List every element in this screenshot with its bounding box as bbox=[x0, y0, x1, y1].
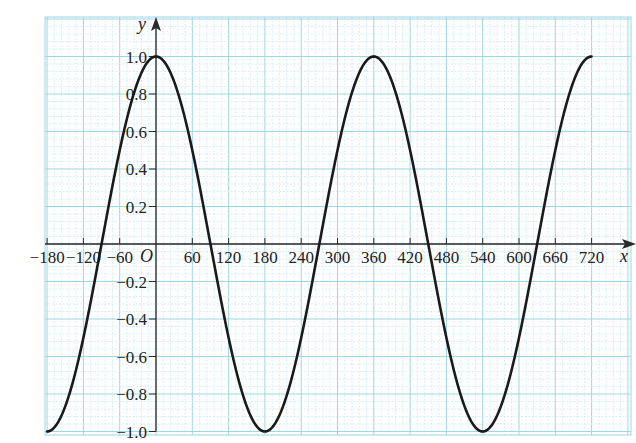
x-tick-label: 480 bbox=[434, 248, 460, 267]
x-tick-label: 240 bbox=[288, 248, 314, 267]
origin-label: O bbox=[140, 246, 153, 266]
y-tick-label: −0.6 bbox=[116, 348, 147, 367]
x-tick-label: 360 bbox=[361, 248, 387, 267]
x-tick-label: 180 bbox=[252, 248, 278, 267]
x-tick-label: −60 bbox=[106, 248, 133, 267]
y-tick-label: 0.6 bbox=[126, 123, 147, 142]
x-tick-label: 420 bbox=[397, 248, 423, 267]
y-tick-label: −0.2 bbox=[116, 273, 147, 292]
x-tick-label: 120 bbox=[216, 248, 242, 267]
grid bbox=[45, 17, 631, 435]
x-tick-label: 720 bbox=[579, 248, 605, 267]
x-tick-label: 660 bbox=[543, 248, 569, 267]
y-tick-label: −0.8 bbox=[116, 385, 147, 404]
y-tick-label: 0.2 bbox=[126, 198, 147, 217]
x-tick-label: 600 bbox=[506, 248, 532, 267]
x-tick-label: −180 bbox=[30, 248, 65, 267]
x-tick-label: 540 bbox=[470, 248, 496, 267]
x-tick-label: 300 bbox=[325, 248, 351, 267]
x-tick-label: −120 bbox=[66, 248, 101, 267]
x-axis: −180−120−6060120180240300360420480540600… bbox=[30, 238, 636, 267]
x-tick-label: 60 bbox=[184, 248, 201, 267]
y-axis-label: y bbox=[136, 14, 146, 34]
x-axis-label: x bbox=[619, 246, 628, 266]
cosine-graph: −180−120−6060120180240300360420480540600… bbox=[0, 0, 636, 443]
y-tick-label: −0.4 bbox=[116, 310, 147, 329]
y-tick-label: 0.4 bbox=[126, 160, 148, 179]
y-tick-label: 1.0 bbox=[126, 48, 147, 67]
y-tick-label: −1.0 bbox=[116, 423, 147, 442]
